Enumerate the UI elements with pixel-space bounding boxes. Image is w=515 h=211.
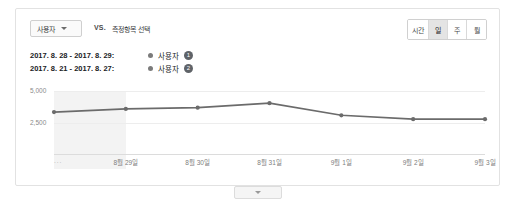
chevron-down-icon — [255, 191, 261, 194]
granularity-option-month[interactable]: 월 — [467, 20, 486, 39]
collapse-panel-handle[interactable] — [234, 186, 282, 199]
legend-row: 2017. 8. 21 - 2017. 8. 27: 사용자 2 — [30, 62, 193, 75]
secondary-metric-picker[interactable]: 측정항목 선택 — [112, 24, 150, 34]
vs-label: VS. — [94, 24, 106, 31]
legend-series-name: 사용자 — [158, 63, 179, 74]
x-axis-tick-label: 9월 1일 — [331, 157, 352, 167]
granularity-option-hour[interactable]: 시간 — [408, 20, 429, 39]
legend-color-dot — [148, 66, 153, 71]
legend-date-range: 2017. 8. 21 - 2017. 8. 27: — [30, 64, 148, 73]
granularity-segmented-control[interactable]: 시간 일 주 월 — [407, 19, 487, 40]
chart-plot-area — [54, 91, 485, 155]
legend-series-name: 사용자 — [158, 50, 179, 61]
y-axis-tick-label: 5,000 — [30, 87, 46, 94]
x-axis-tick-label: 8월 31일 — [257, 157, 282, 167]
analytics-chart-panel: 사용자 VS. 측정항목 선택 시간 일 주 월 2017. 8. 28 - 2… — [0, 0, 515, 211]
series-path — [54, 91, 485, 155]
x-axis-labels: ...8월 29일8월 30일8월 31일9월 1일9월 2일9월 3일 — [54, 157, 485, 173]
legend-series-badge: 1 — [184, 51, 193, 60]
x-axis-tick-label: 9월 3일 — [474, 157, 495, 167]
y-axis-tick-label: 2,500 — [30, 119, 46, 126]
x-axis-tick-label: ... — [54, 157, 62, 164]
primary-metric-label: 사용자 — [37, 24, 55, 34]
x-axis-tick-label: 8월 30일 — [185, 157, 210, 167]
chart-card: 사용자 VS. 측정항목 선택 시간 일 주 월 2017. 8. 28 - 2… — [15, 8, 500, 186]
chevron-down-icon — [61, 27, 67, 30]
legend-series-badge: 2 — [184, 64, 193, 73]
chart-legend: 2017. 8. 28 - 2017. 8. 29: 사용자 1 2017. 8… — [30, 49, 193, 75]
line-chart: 5,000 2,500 ...8월 29일8월 30일8월 31일9월 1일9월… — [30, 81, 489, 173]
chart-toolbar: 사용자 VS. 측정항목 선택 시간 일 주 월 — [16, 9, 499, 45]
legend-date-range: 2017. 8. 28 - 2017. 8. 29: — [30, 51, 148, 60]
x-axis-tick-label: 9월 2일 — [403, 157, 424, 167]
legend-row: 2017. 8. 28 - 2017. 8. 29: 사용자 1 — [30, 49, 193, 62]
x-axis-tick-label: 8월 29일 — [114, 157, 139, 167]
granularity-option-day[interactable]: 일 — [429, 20, 448, 39]
granularity-option-week[interactable]: 주 — [448, 20, 467, 39]
legend-color-dot — [148, 53, 153, 58]
primary-metric-dropdown[interactable]: 사용자 — [30, 20, 82, 37]
